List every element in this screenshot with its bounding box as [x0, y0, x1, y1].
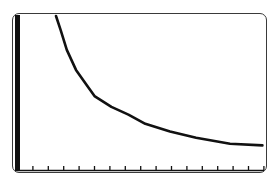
chart-plot-area — [0, 0, 271, 177]
data-curve — [56, 16, 262, 145]
